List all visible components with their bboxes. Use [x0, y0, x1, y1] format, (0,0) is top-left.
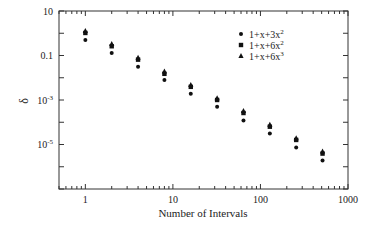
- x-tick-label: 1000: [338, 194, 358, 205]
- y-tick-label: 10-3: [37, 94, 53, 106]
- legend-marker-circle: [239, 32, 243, 36]
- legend-label: 1+x+3x2: [249, 28, 284, 40]
- data-point-circle: [189, 92, 193, 96]
- data-point-circle: [215, 105, 219, 109]
- data-point-triangle: [188, 82, 193, 87]
- data-point-triangle: [215, 95, 220, 100]
- data-point-triangle: [267, 122, 272, 127]
- data-point-triangle: [162, 69, 167, 74]
- legend: 1+x+3x21+x+6x21+x+6x3: [238, 28, 284, 62]
- data-point-circle: [241, 118, 245, 122]
- data-point-triangle: [83, 28, 88, 33]
- legend-marker-square: [239, 43, 243, 47]
- y-tick-label: 0.1: [41, 50, 54, 61]
- data-point-circle: [83, 38, 87, 42]
- legend-label: 1+x+6x2: [249, 39, 284, 51]
- y-tick-label: 10: [43, 6, 53, 17]
- data-point-triangle: [320, 149, 325, 154]
- data-point-circle: [268, 132, 272, 136]
- x-axis-ticks: 1101001000: [59, 11, 358, 205]
- data-points: [83, 28, 325, 163]
- data-point-circle: [162, 78, 166, 82]
- legend-label: 1+x+6x3: [249, 50, 284, 62]
- data-point-circle: [294, 146, 298, 150]
- x-tick-label: 100: [253, 194, 268, 205]
- x-axis-label: Number of Intervals: [158, 207, 247, 219]
- chart: 1101001000 100.110-310-5 1+x+3x21+x+6x21…: [0, 0, 374, 228]
- data-point-triangle: [241, 108, 246, 113]
- plot-frame: [59, 11, 348, 189]
- x-tick-label: 10: [168, 194, 178, 205]
- data-point-circle: [321, 159, 325, 163]
- data-point-triangle: [135, 55, 140, 60]
- data-point-triangle: [109, 41, 114, 46]
- y-tick-label: 10-5: [37, 138, 53, 150]
- x-tick-label: 1: [83, 194, 88, 205]
- legend-marker-triangle: [238, 53, 243, 58]
- data-point-circle: [110, 51, 114, 55]
- data-point-circle: [136, 65, 140, 69]
- y-axis-label: δ: [17, 98, 31, 104]
